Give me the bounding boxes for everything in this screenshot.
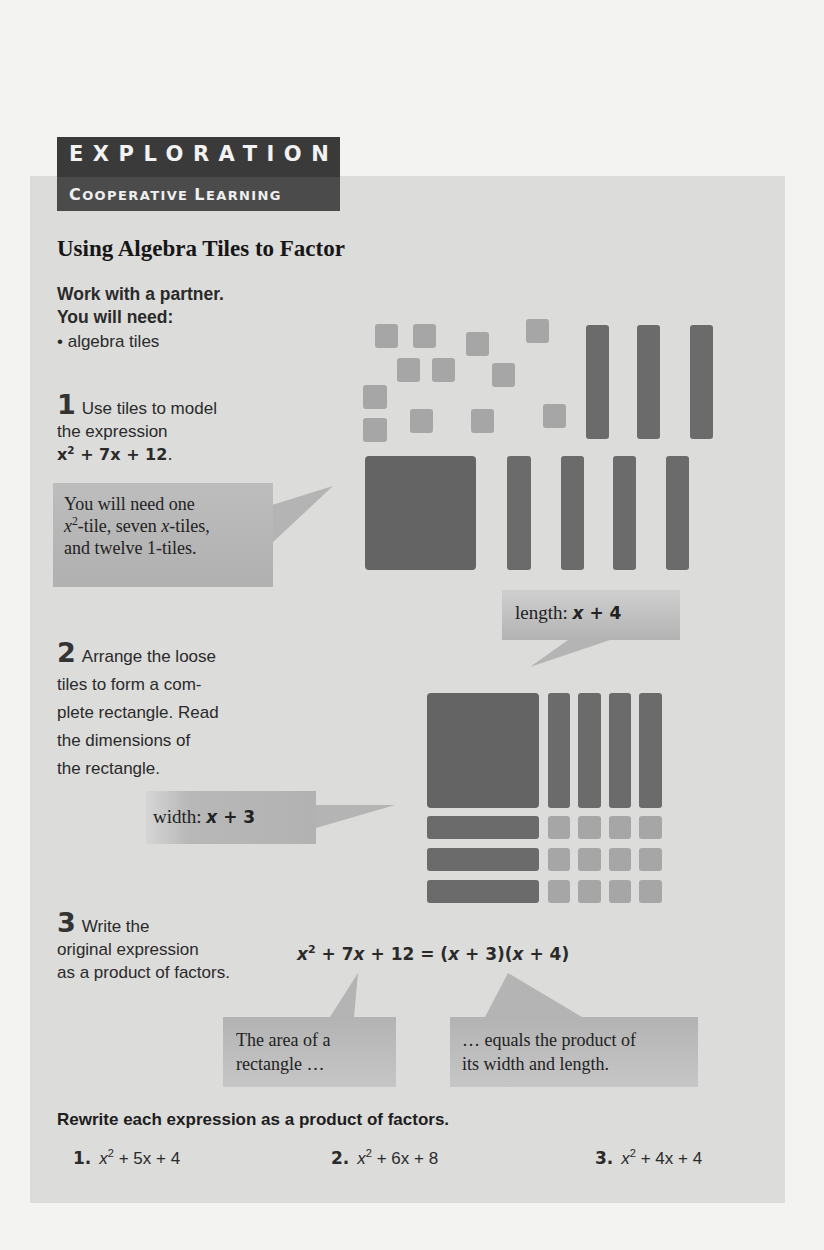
step-3: 3Write the original expression as a prod… (57, 911, 230, 984)
exercise-2: 2.x2 + 6x + 8 (331, 1148, 438, 1169)
x-tile-horizontal[interactable] (427, 816, 539, 839)
x-tile-horizontal[interactable] (427, 848, 539, 871)
unit-tile[interactable] (578, 880, 601, 903)
unit-tile[interactable] (397, 358, 420, 382)
product-callout: … equals the product of its width and le… (450, 1017, 698, 1087)
unit-tile[interactable] (578, 848, 601, 871)
area-callout: The area of a rectangle … (223, 1017, 396, 1087)
unit-tile[interactable] (432, 358, 455, 382)
unit-tile[interactable] (609, 880, 631, 903)
x-tile[interactable] (548, 693, 570, 808)
x-tile[interactable] (507, 456, 531, 570)
exercise-3: 3.x2 + 4x + 4 (595, 1148, 702, 1169)
unit-tile[interactable] (639, 848, 662, 871)
unit-tile[interactable] (363, 385, 387, 409)
unit-tile[interactable] (363, 418, 387, 442)
factored-equation: x2 + 7x + 12 = (x + 3)(x + 4) (297, 944, 569, 964)
unit-tile[interactable] (578, 816, 601, 839)
unit-tile[interactable] (548, 816, 570, 839)
step-2: 2Arrange the loose tiles to form a com- … (57, 641, 219, 783)
step-3-number: 3 (57, 907, 76, 938)
x-tile[interactable] (586, 325, 609, 439)
x-tile[interactable] (666, 456, 689, 570)
x-squared-tile[interactable] (365, 456, 476, 570)
unit-tile[interactable] (639, 816, 662, 839)
exercise-instruction: Rewrite each expression as a product of … (57, 1110, 449, 1130)
unit-tile[interactable] (466, 332, 489, 356)
x-tile[interactable] (637, 325, 660, 439)
unit-tile[interactable] (609, 816, 631, 839)
unit-tile[interactable] (492, 363, 515, 387)
x-tile[interactable] (578, 693, 601, 808)
x-tile[interactable] (639, 693, 662, 808)
x-tile[interactable] (561, 456, 584, 570)
unit-tile[interactable] (375, 324, 398, 348)
x-tile[interactable] (690, 325, 713, 439)
unit-tile[interactable] (543, 404, 566, 428)
x-tile[interactable] (609, 693, 631, 808)
unit-tile[interactable] (548, 848, 570, 871)
unit-tile[interactable] (413, 324, 436, 348)
width-callout: width: x + 3 (146, 791, 316, 844)
exercise-1: 1.x2 + 5x + 4 (73, 1148, 180, 1169)
unit-tile[interactable] (526, 319, 549, 343)
unit-tile[interactable] (548, 880, 570, 903)
tiles-needed-callout: You will need one x2-tile, seven x-tiles… (53, 483, 273, 587)
x-tile-horizontal[interactable] (427, 880, 539, 903)
unit-tile[interactable] (471, 409, 494, 433)
unit-tile[interactable] (609, 848, 631, 871)
length-callout: length: x + 4 (502, 590, 680, 640)
x-squared-tile[interactable] (427, 693, 539, 808)
x-tile[interactable] (613, 456, 636, 570)
callout-tails (0, 0, 824, 1250)
unit-tile[interactable] (639, 880, 662, 903)
step-2-number: 2 (57, 637, 76, 668)
unit-tile[interactable] (410, 409, 433, 433)
